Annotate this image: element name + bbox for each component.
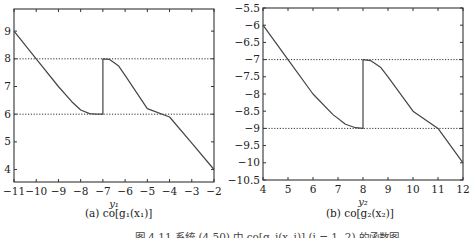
y-tick-label: −10 [238,156,260,168]
x-tick-label: 10 [406,183,419,195]
x-tick-label: −3 [184,185,199,197]
chart-panel-b: 456789101112−5.5−6−6.5−7−7.5−8−8.5−9−9.5… [228,2,470,208]
y-tick-label: −9 [245,122,260,134]
x-tick-label: 9 [385,183,392,195]
data-series-line [14,31,214,169]
x-tick-label: −7 [95,185,110,197]
figure-caption: 图 4.11 系统 (4.50) 中 co[g_i(x_i)] (i = 1, … [135,229,399,238]
x-tick-label: 12 [456,183,469,195]
y-tick-label: −7.5 [235,70,261,82]
y-tick-label: 6 [4,108,11,120]
y-tick-label: 8 [4,52,11,64]
y-tick-label: 5 [4,135,11,147]
x-tick-label: −10 [25,185,47,197]
x-tick-label: −4 [162,185,178,197]
subcaption-b: (b) co[g₂(x₂)] [326,207,394,219]
x-tick-label: −11 [3,185,25,197]
data-series-line [263,25,463,163]
y-tick-label: −10.5 [228,174,260,186]
y-tick-label: 4 [4,163,11,175]
x-tick-label: −5 [140,185,155,197]
plot-frame [14,9,214,182]
x-tick-label: 11 [431,183,444,195]
x-tick-label: 8 [360,183,367,195]
y-tick-label: −8 [245,88,260,100]
x-tick-label: −9 [51,185,66,197]
y-tick-label: −6.5 [235,36,261,48]
x-tick-label: 7 [335,183,342,195]
x-tick-label: 4 [260,183,267,195]
y-tick-label: −9.5 [235,139,261,151]
x-tick-label: −6 [117,185,133,197]
y-tick-label: −6 [245,19,261,31]
x-tick-label: 5 [285,183,292,195]
figure-canvas: −11−10−9−8−7−6−5−4−3−2456789y₁ 456789101… [0,0,471,238]
x-axis-label: y₂ [357,196,368,207]
subcaption-a: (a) co[g₁(x₁)] [85,207,152,219]
y-tick-label: −7 [245,53,260,65]
x-tick-label: −8 [73,185,88,197]
y-tick-label: 9 [4,25,11,37]
x-tick-label: 6 [310,183,317,195]
y-tick-label: 7 [4,80,11,92]
x-tick-label: −2 [206,185,221,197]
chart-panel-a: −11−10−9−8−7−6−5−4−3−2456789y₁ [3,9,222,209]
y-tick-label: −5.5 [235,2,261,14]
y-tick-label: −8.5 [235,105,261,117]
